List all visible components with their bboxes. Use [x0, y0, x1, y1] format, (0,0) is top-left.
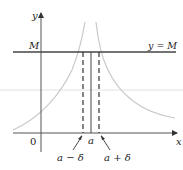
pointer-a-minus-delta-head [78, 135, 82, 140]
curve-left-branch [13, 22, 85, 130]
m-label: M [28, 40, 40, 51]
origin-label: 0 [30, 136, 36, 147]
a-plus-delta-label: a + δ [104, 152, 131, 163]
y-equals-m-label: y = M [147, 40, 177, 51]
curve-right-branch [96, 22, 175, 118]
x-axis-label: x [176, 136, 182, 147]
y-axis-label: y [31, 10, 38, 21]
a-label: a [88, 135, 94, 146]
a-minus-delta-label: a − δ [57, 152, 84, 163]
diagram-canvas: y x 0 M y = M a a − δ a + δ [0, 0, 183, 170]
pointer-a-plus-delta-head [101, 135, 105, 140]
